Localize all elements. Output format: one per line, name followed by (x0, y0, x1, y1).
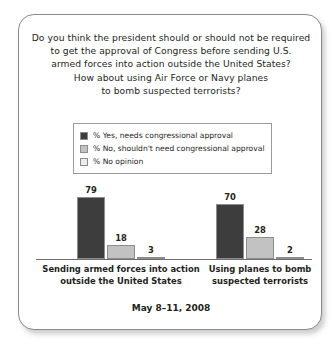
legend-swatch-yes-icon (80, 132, 88, 140)
bar-group-2-series-2 (246, 237, 274, 259)
bar-group-2-series-3 (276, 257, 304, 259)
category-label-1: Sending armed forces into actionoutside … (41, 263, 201, 287)
category-label-2: Using planes to bombsuspected terrorists (200, 263, 320, 287)
legend-label-yes: % Yes, needs congressional approval (93, 131, 233, 140)
question-line-5: to bomb suspected terrorists? (29, 84, 313, 97)
bar-group-2-series-1 (216, 204, 244, 259)
legend-label-no-opinion: % No opinion (93, 157, 143, 166)
bar-value-label-2-2: 28 (246, 225, 274, 235)
legend-label-no: % No, shouldn't need congressional appro… (93, 144, 265, 153)
category-label-2-line-2: suspected terrorists (200, 275, 320, 287)
question-line-1: Do you think the president should or sho… (29, 31, 313, 44)
bar-value-label-2-3: 2 (276, 245, 304, 255)
bar-group-1-series-2 (107, 245, 135, 259)
legend-item-yes: % Yes, needs congressional approval (80, 129, 264, 142)
bar-group-1-series-3 (137, 257, 165, 259)
category-axis-labels: Sending armed forces into actionoutside … (36, 263, 312, 297)
question-line-4: How about using Air Force or Navy planes (29, 71, 313, 84)
question-line-3: armed forces into action outside the Uni… (29, 57, 313, 70)
x-axis-line (36, 259, 312, 260)
poll-result-card: Do you think the president should or sho… (18, 14, 322, 330)
survey-date: May 8–11, 2008 (29, 303, 313, 313)
question-line-2: to get the approval of Congress before s… (29, 44, 313, 57)
legend-swatch-no-opinion-icon (80, 158, 88, 166)
bar-value-label-1-1: 79 (77, 185, 105, 195)
legend-item-no: % No, shouldn't need congressional appro… (80, 142, 264, 155)
bar-chart-plot: 7918370282 (36, 175, 312, 260)
legend-swatch-no-icon (80, 145, 88, 153)
poll-question: Do you think the president should or sho… (29, 31, 313, 97)
category-label-1-line-2: outside the United States (41, 275, 201, 287)
bar-value-label-2-1: 70 (216, 192, 244, 202)
bar-group-1-series-1 (77, 197, 105, 259)
screenshot-root: Do you think the president should or sho… (0, 0, 336, 354)
legend-item-no-opinion: % No opinion (80, 155, 264, 168)
chart-legend: % Yes, needs congressional approval % No… (73, 123, 272, 174)
bar-value-label-1-3: 3 (137, 245, 165, 255)
category-label-1-line-1: Sending armed forces into action (41, 263, 201, 275)
category-label-2-line-1: Using planes to bomb (200, 263, 320, 275)
bar-value-label-1-2: 18 (107, 233, 135, 243)
